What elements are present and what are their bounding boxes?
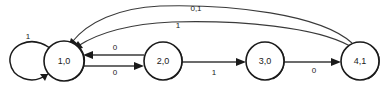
arc-path-s4-s1-inner xyxy=(78,22,350,46)
transition-state4-to-state1-outer: 0,1 xyxy=(68,4,352,48)
transition-label-s3-s4: 0 xyxy=(312,66,317,75)
arrowhead-s1-s2 xyxy=(134,62,144,70)
transition-state1-to-state2: 0 xyxy=(84,62,144,77)
state-node-1[interactable]: 1,0 xyxy=(44,41,84,81)
transition-label-self-loop: 1 xyxy=(26,32,31,41)
state-node-4[interactable]: 4,1 xyxy=(341,42,379,80)
state-diagram-canvas: 1 0 0 1 0 0,1 xyxy=(0,0,392,92)
state-node-4-label: 4,1 xyxy=(354,56,367,66)
state-node-2[interactable]: 2,0 xyxy=(144,42,182,80)
state-diagram-container: 1 0 0 1 0 0,1 xyxy=(0,0,392,92)
transition-state2-to-state1: 0 xyxy=(83,43,144,59)
transition-label-s4-s1-inner: 1 xyxy=(176,21,181,30)
transition-label-s4-s1-outer: 0,1 xyxy=(190,4,202,13)
transition-label-s1-s2: 0 xyxy=(113,68,118,77)
transition-state2-to-state3: 1 xyxy=(182,58,246,77)
transition-state3-to-state4: 0 xyxy=(284,58,341,75)
arrowhead-s2-s3 xyxy=(236,58,246,66)
state-node-3-label: 3,0 xyxy=(259,56,272,66)
state-node-2-label: 2,0 xyxy=(157,56,170,66)
state-node-1-label: 1,0 xyxy=(58,56,71,66)
transition-label-s2-s3: 1 xyxy=(212,68,217,77)
arrowhead-s3-s4 xyxy=(331,58,341,66)
arc-path-s4-s1-outer xyxy=(72,6,352,43)
transition-label-s2-s1: 0 xyxy=(113,43,118,52)
state-node-3[interactable]: 3,0 xyxy=(246,42,284,80)
